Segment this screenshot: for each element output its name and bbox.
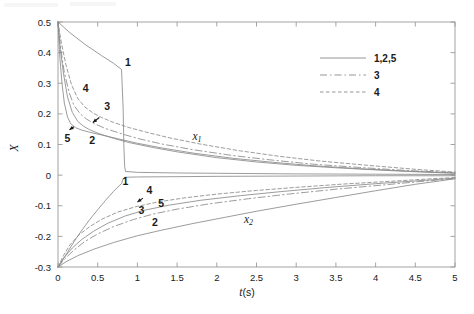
x-tick-label: 1 <box>135 272 140 283</box>
curve-number-label: 5 <box>158 197 164 209</box>
curve-number-label: 3 <box>138 204 144 216</box>
curve-number-label: 1 <box>125 56 131 68</box>
x-tick-label: 0.5 <box>91 272 104 283</box>
legend-label-2: 3 <box>374 70 380 81</box>
x-tick-label: 3.5 <box>329 272 342 283</box>
x-axis-title: t(s) <box>239 286 254 298</box>
scan-artifact <box>4 3 58 7</box>
curve-number-label: 5 <box>65 132 71 144</box>
line-chart: 00.511.522.533.544.55 -0.3-0.2-0.100.10.… <box>0 0 474 314</box>
y-tick-label: 0.5 <box>38 17 51 28</box>
y-tick-label: -0.2 <box>35 231 51 242</box>
x-tick-label: 3 <box>294 272 299 283</box>
y-tick-label: 0.3 <box>38 78 51 89</box>
x-tick-label: 2 <box>214 272 219 283</box>
scan-artifact <box>70 2 116 6</box>
curve-number-label: 2 <box>152 216 158 228</box>
curve-number-label: 4 <box>83 82 89 94</box>
y-tick-label: -0.1 <box>35 200 51 211</box>
x-tick-label: 4 <box>373 272 378 283</box>
curve-number-label: 4 <box>146 184 152 196</box>
y-tick-label: 0.2 <box>38 108 51 119</box>
x-tick-label: 1.5 <box>170 272 183 283</box>
x-tick-label: 2.5 <box>250 272 263 283</box>
x-tick-label: 0 <box>55 272 60 283</box>
curve-number-label: 1 <box>123 175 129 187</box>
x-tick-label: 4.5 <box>409 272 422 283</box>
legend-label-3: 4 <box>374 87 380 98</box>
y-tick-label: 0.4 <box>38 47 51 58</box>
y-tick-label: -0.3 <box>35 262 51 273</box>
y-tick-label: 0 <box>46 170 51 181</box>
curve-number-label: 3 <box>104 100 110 112</box>
x-tick-label: 5 <box>452 272 457 283</box>
y-axis-title: X <box>8 144 20 153</box>
legend-label-1: 1,2,5 <box>374 53 397 64</box>
y-axis-tick-labels: -0.3-0.2-0.100.10.20.30.40.5 <box>35 17 51 273</box>
curve-number-label: 2 <box>89 134 95 146</box>
figure-container: 00.511.522.533.544.55 -0.3-0.2-0.100.10.… <box>0 0 474 314</box>
y-tick-label: 0.1 <box>38 139 51 150</box>
